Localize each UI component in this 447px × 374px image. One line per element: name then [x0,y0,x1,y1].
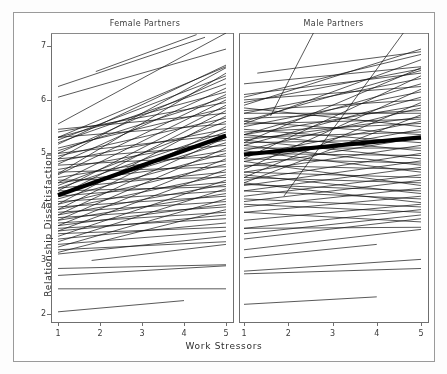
x-tick-label: 4 [370,329,384,338]
y-tick-label: 4 [30,202,46,211]
y-axis-label-wrapper: Relationship Dissatisfaction [18,80,32,280]
x-tick-label: 1 [237,329,251,338]
x-axis-label: Work Stressors [13,341,435,351]
x-tick-label: 5 [219,329,233,338]
x-tick-label: 2 [281,329,295,338]
y-tick-label: 3 [30,255,46,264]
x-tick-label: 3 [135,329,149,338]
x-tick-label: 3 [326,329,340,338]
x-tick-label: 4 [177,329,191,338]
x-tick-label: 5 [414,329,428,338]
y-tick-label: 7 [30,41,46,50]
x-tick-label: 2 [93,329,107,338]
y-tick-label: 2 [30,309,46,318]
y-tick-label: 5 [30,148,46,157]
panel-title-female: Female Partners [51,19,239,28]
figure-container: Female Partners Male Partners Relationsh… [0,0,447,374]
panel-title-male: Male Partners [239,19,428,28]
spaghetti-plot-canvas [0,0,447,374]
y-tick-label: 6 [30,95,46,104]
x-tick-label: 1 [51,329,65,338]
